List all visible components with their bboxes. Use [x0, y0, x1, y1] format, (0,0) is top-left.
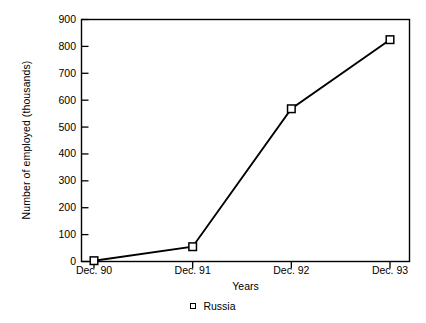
- x-axis-tick-labels: Dec. 90 Dec. 91 Dec. 92 Dec. 93: [0, 0, 426, 323]
- x-tick-label: Dec. 90: [59, 264, 129, 277]
- legend-label: Russia: [203, 300, 235, 312]
- y-axis-title: Number of employed (thousands): [16, 19, 36, 261]
- x-tick-label: Dec. 92: [256, 264, 326, 277]
- legend-marker-icon: [190, 303, 196, 309]
- x-axis-title: Years: [81, 280, 410, 293]
- chart-legend: Russia: [0, 300, 426, 312]
- x-tick-label: Dec. 91: [158, 264, 228, 277]
- x-tick-label: Dec. 93: [355, 264, 425, 277]
- chart-figure: 900 800 700 600 500 400 300 200 100 0 De…: [0, 0, 426, 323]
